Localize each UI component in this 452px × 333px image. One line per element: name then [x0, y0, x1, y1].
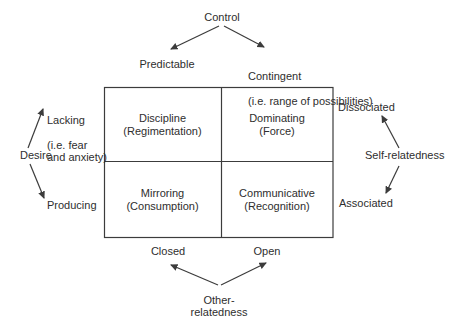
quadrant-discipline-subtitle: (Regimentation)	[123, 125, 201, 137]
predictable-label: Predictable	[139, 58, 194, 70]
quadrant-mirroring: Mirroring (Consumption)	[104, 162, 221, 237]
associated-label: Associated	[339, 197, 393, 209]
desire-label: Desire	[20, 149, 52, 161]
dissociated-label: Dissociated	[338, 101, 395, 113]
desire-to-lacking-arrow	[28, 109, 43, 148]
self-relatedness-to-dissociated-arrow	[382, 116, 399, 148]
control-to-predictable-arrow	[171, 26, 219, 49]
quadrant-mirroring-title: Mirroring	[141, 187, 184, 199]
closed-label: Closed	[151, 245, 185, 257]
lacking-note: (i.e. fear and anxiety)	[47, 139, 107, 164]
lacking-title: Lacking	[47, 114, 107, 126]
self-relatedness-to-associated-arrow	[386, 166, 399, 193]
desire-to-producing-arrow	[30, 164, 44, 198]
other-relatedness-label: Other- relatedness	[191, 294, 248, 319]
other-relatedness-to-closed-arrow	[171, 265, 218, 285]
quadrant-diagram: Control Predictable Contingent (i.e. ran…	[0, 0, 452, 333]
control-to-contingent-arrow	[224, 26, 264, 47]
quadrant-dominating-title: Dominating	[249, 112, 305, 124]
quadrant-communicative-title: Communicative	[239, 187, 315, 199]
lacking-label: Lacking (i.e. fear and anxiety)	[47, 102, 107, 176]
quadrant-communicative: Communicative (Recognition)	[221, 162, 333, 237]
quadrant-communicative-subtitle: (Recognition)	[244, 200, 309, 212]
quadrant-mirroring-subtitle: (Consumption)	[126, 200, 198, 212]
other-relatedness-to-open-arrow	[221, 263, 266, 285]
self-relatedness-label: Self-relatedness	[365, 149, 445, 161]
quadrant-discipline-title: Discipline	[139, 112, 186, 124]
open-label: Open	[254, 245, 281, 257]
quadrant-dominating: Dominating (Force)	[221, 88, 333, 161]
quadrant-discipline: Discipline (Regimentation)	[104, 88, 221, 161]
quadrant-dominating-subtitle: (Force)	[259, 125, 294, 137]
control-label: Control	[204, 11, 239, 23]
producing-label: Producing	[47, 199, 97, 211]
contingent-title: Contingent	[248, 70, 373, 82]
